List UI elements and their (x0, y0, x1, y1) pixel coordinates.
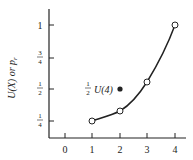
svg-text:1: 1 (38, 80, 42, 88)
svg-text:4: 4 (38, 121, 42, 129)
x-tick-label-0: 0 (63, 144, 68, 155)
svg-text:2: 2 (86, 89, 90, 97)
x-tick-label-1: 1 (90, 144, 95, 155)
y-tick-label-1-2: 1 2 (37, 80, 43, 97)
data-point-3 (144, 79, 150, 85)
x-ticks (65, 133, 175, 138)
data-points (89, 22, 178, 124)
data-point-1 (89, 118, 95, 124)
svg-text:3: 3 (38, 49, 42, 57)
y-axis-title: U(X) or pr (6, 57, 19, 99)
data-point-4 (172, 22, 178, 28)
half-u4-annotation: 1 2 U(4) (85, 80, 123, 97)
chart: 0 1 2 3 4 1 3 4 1 2 1 4 U(X) or pr 1 (0, 0, 193, 160)
svg-text:4: 4 (38, 58, 42, 66)
x-tick-label-2: 2 (118, 144, 123, 155)
x-tick-label-3: 3 (145, 144, 150, 155)
half-u4-point (117, 86, 122, 91)
y-tick-label-1: 1 (38, 20, 43, 31)
y-ticks (49, 25, 54, 121)
svg-text:U(X) or pr: U(X) or pr (6, 57, 19, 99)
svg-text:1: 1 (38, 112, 42, 120)
utility-curve (92, 25, 175, 121)
data-point-2 (117, 108, 123, 114)
y-tick-label-3-4: 3 4 (37, 49, 43, 66)
x-tick-label-4: 4 (173, 144, 178, 155)
svg-text:1: 1 (86, 80, 90, 88)
svg-text:U(4): U(4) (94, 84, 114, 96)
svg-text:2: 2 (38, 89, 42, 97)
y-tick-label-1-4: 1 4 (37, 112, 43, 129)
